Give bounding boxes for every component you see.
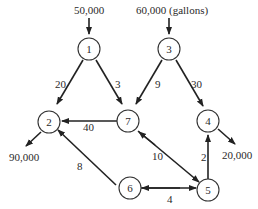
demand-arrow-2 [26, 132, 41, 146]
demand-label-4: 20,000 [222, 150, 252, 161]
edge-label-1-2: 20 [55, 79, 66, 90]
edge-label-6-5: 4 [167, 194, 173, 205]
edge-label-1-7: 3 [115, 79, 121, 90]
edge-label-5-4: 2 [201, 152, 207, 163]
edge-label-3-4: 30 [191, 79, 202, 90]
diagram-canvas [0, 0, 258, 209]
edge-label-7-5: 10 [152, 151, 163, 162]
network-diagram: 1 2 3 4 5 6 7 20 3 9 30 40 8 10 2 4 50,0… [0, 0, 258, 209]
node-label-1: 1 [79, 44, 99, 55]
node-label-5: 5 [198, 185, 218, 196]
node-label-4: 4 [198, 116, 218, 127]
demand-label-2: 90,000 [9, 152, 39, 163]
edge-6-2 [58, 130, 116, 185]
node-label-2: 2 [39, 117, 59, 128]
node-label-3: 3 [159, 44, 179, 55]
demand-arrow-4 [218, 129, 235, 144]
supply-label-3: 60,000 (gallons) [136, 5, 208, 16]
edge-label-6-2: 8 [77, 161, 83, 172]
node-label-7: 7 [118, 116, 138, 127]
edge-label-7-2: 40 [83, 122, 94, 133]
supply-label-1: 50,000 [74, 5, 104, 16]
edge-label-3-7: 9 [155, 79, 161, 90]
node-label-6: 6 [120, 183, 140, 194]
